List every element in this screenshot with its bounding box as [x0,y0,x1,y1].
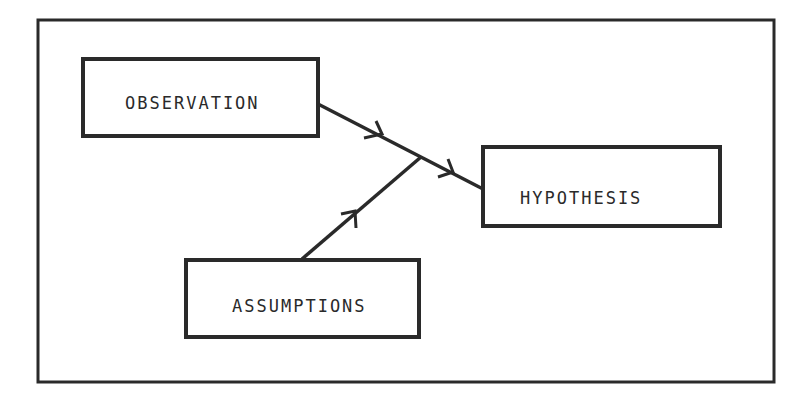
node-observation: OBSERVATION [83,59,318,136]
node-assumptions: ASSUMPTIONS [186,260,419,337]
hypothesis-label: HYPOTHESIS [520,188,642,208]
assumptions-label: ASSUMPTIONS [232,296,367,316]
hypothesis-box [483,147,720,226]
observation-label: OBSERVATION [125,93,260,113]
node-hypothesis: HYPOTHESIS [483,147,720,226]
edge-assumptions-hypothesis [302,157,421,259]
outer-frame [38,20,774,382]
diagram-canvas: OBSERVATION HYPOTHESIS ASSUMPTIONS [0,0,808,401]
edge-line [302,157,421,259]
